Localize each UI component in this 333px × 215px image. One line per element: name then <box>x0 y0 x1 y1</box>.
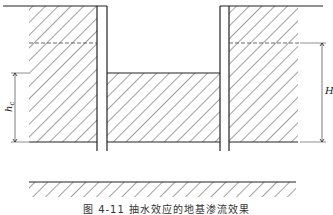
lower-stratum-hatch <box>29 182 296 197</box>
excavation-bottom-hatch <box>107 73 220 142</box>
h-label: H <box>324 85 333 96</box>
hc-label: hc <box>3 102 16 112</box>
excavation-diagram: hc H <box>0 0 333 215</box>
left-soil-hatch <box>29 6 97 142</box>
figure-caption: 图 4-11 抽水效应的地基渗流效果 <box>0 201 333 215</box>
right-soil-hatch <box>229 6 298 142</box>
